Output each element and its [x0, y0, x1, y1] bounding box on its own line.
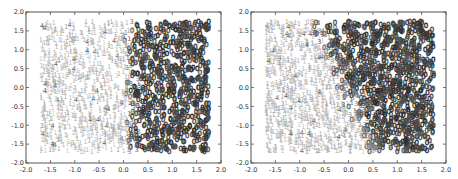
svg-text:1: 1	[82, 97, 86, 105]
svg-text:1: 1	[324, 133, 328, 141]
svg-text:0: 0	[180, 69, 184, 77]
svg-text:0: 0	[189, 75, 193, 83]
svg-text:1: 1	[127, 73, 131, 81]
svg-text:1: 1	[350, 134, 354, 142]
svg-text:1: 1	[115, 40, 119, 48]
svg-text:1: 1	[312, 51, 316, 59]
svg-text:1: 1	[314, 96, 318, 104]
svg-text:3: 3	[129, 116, 133, 124]
y-tick-label: -0.5	[236, 103, 249, 111]
svg-text:1: 1	[272, 107, 276, 115]
svg-text:4: 4	[41, 130, 45, 138]
y-tick-label: -0.5	[11, 103, 24, 111]
svg-text:0: 0	[417, 42, 421, 50]
svg-text:0: 0	[158, 73, 162, 81]
svg-text:0: 0	[197, 136, 201, 144]
x-tick-label: 1.0	[167, 166, 177, 174]
y-tick-label: 1.5	[14, 27, 24, 35]
svg-text:1: 1	[40, 71, 44, 79]
chart-svg: 1000110101111000011111110010001111111011…	[0, 0, 231, 179]
y-tick-label: 0.0	[239, 84, 249, 92]
svg-text:1: 1	[276, 118, 280, 126]
y-tick-label: 0.5	[239, 65, 249, 73]
svg-text:1: 1	[91, 68, 95, 76]
svg-text:0: 0	[206, 105, 210, 113]
svg-text:0: 0	[372, 99, 376, 107]
svg-text:0: 0	[184, 147, 188, 155]
svg-text:0: 0	[174, 63, 178, 71]
y-tick-label: -1.5	[11, 140, 24, 148]
svg-text:1: 1	[123, 121, 127, 129]
svg-text:1: 1	[129, 41, 133, 49]
svg-text:0: 0	[161, 48, 165, 56]
svg-text:0: 0	[365, 111, 369, 119]
svg-text:1: 1	[293, 79, 297, 87]
svg-text:1: 1	[314, 148, 318, 156]
svg-text:1: 1	[273, 20, 277, 28]
svg-text:1: 1	[337, 84, 341, 92]
svg-text:0: 0	[139, 113, 143, 121]
svg-text:1: 1	[121, 147, 125, 155]
svg-text:0: 0	[204, 21, 208, 29]
x-tick-label: -0.5	[93, 166, 106, 174]
svg-text:1: 1	[264, 43, 268, 51]
svg-text:1: 1	[86, 93, 90, 101]
svg-text:4: 4	[51, 140, 55, 148]
x-tick-label: -1.0	[293, 166, 306, 174]
svg-text:0: 0	[410, 62, 414, 70]
svg-text:0: 0	[195, 48, 199, 56]
svg-text:1: 1	[73, 110, 77, 118]
svg-text:0: 0	[147, 20, 151, 28]
svg-text:0: 0	[198, 57, 202, 65]
svg-text:1: 1	[356, 109, 360, 117]
svg-text:1: 1	[278, 136, 282, 144]
svg-text:1: 1	[300, 70, 304, 78]
svg-text:1: 1	[64, 46, 68, 54]
svg-text:0: 0	[135, 22, 139, 30]
x-tick-label: -0.5	[318, 166, 331, 174]
svg-text:1: 1	[54, 96, 58, 104]
svg-text:1: 1	[317, 44, 321, 52]
svg-text:0: 0	[149, 72, 153, 80]
svg-text:4: 4	[43, 87, 47, 95]
svg-text:1: 1	[119, 112, 123, 120]
svg-text:1: 1	[289, 20, 293, 28]
x-tick-label: 0.5	[143, 166, 153, 174]
svg-text:0: 0	[346, 32, 350, 40]
svg-text:1: 1	[88, 111, 92, 119]
svg-text:1: 1	[51, 73, 55, 81]
svg-text:1: 1	[70, 36, 74, 44]
svg-text:1: 1	[63, 123, 67, 131]
svg-text:0: 0	[186, 104, 190, 112]
svg-text:0: 0	[185, 43, 189, 51]
svg-text:1: 1	[119, 20, 123, 28]
svg-text:0: 0	[333, 19, 337, 27]
svg-text:0: 0	[359, 65, 363, 73]
svg-text:1: 1	[290, 122, 294, 130]
svg-text:1: 1	[327, 77, 331, 85]
y-tick-label: -2.0	[236, 159, 249, 167]
svg-text:1: 1	[69, 141, 73, 149]
svg-text:1: 1	[300, 44, 304, 52]
svg-text:0: 0	[196, 113, 200, 121]
svg-text:1: 1	[343, 92, 347, 100]
svg-text:0: 0	[335, 38, 339, 46]
svg-text:1: 1	[125, 19, 129, 27]
svg-text:1: 1	[304, 19, 308, 27]
svg-text:0: 0	[200, 104, 204, 112]
svg-text:0: 0	[348, 52, 352, 60]
svg-text:1: 1	[99, 31, 103, 39]
svg-text:1: 1	[50, 124, 54, 132]
svg-text:0: 0	[333, 28, 337, 36]
svg-text:0: 0	[425, 30, 429, 38]
svg-text:1: 1	[268, 95, 272, 103]
svg-text:1: 1	[65, 140, 69, 148]
svg-text:0: 0	[361, 73, 365, 81]
svg-text:0: 0	[374, 50, 378, 58]
svg-text:0: 0	[431, 32, 435, 40]
y-tick-label: -2.0	[11, 159, 24, 167]
svg-text:0: 0	[156, 89, 160, 97]
svg-text:0: 0	[414, 76, 418, 84]
svg-text:4: 4	[106, 105, 110, 113]
svg-text:0: 0	[179, 88, 183, 96]
